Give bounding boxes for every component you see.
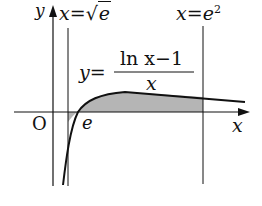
- label-x-e-squared-lhs: x=: [176, 2, 203, 24]
- equation-lhs: y=: [79, 61, 106, 83]
- label-x-sqrt-e-radicand: e: [98, 1, 111, 24]
- x-axis-label: x: [232, 114, 243, 136]
- y-axis-arrow-icon: [49, 5, 57, 17]
- label-x-e-squared-base: e: [203, 2, 214, 24]
- label-x-sqrt-e-lhs: x=: [59, 2, 86, 24]
- equation-numerator: ln x−1: [120, 47, 183, 69]
- origin-label: O: [32, 113, 47, 134]
- equation-denominator: x: [146, 72, 157, 94]
- root-label: e: [82, 112, 93, 133]
- y-axis-label: y: [35, 0, 45, 20]
- label-x-e-squared-exponent: 2: [214, 3, 221, 16]
- sqrt-icon: √: [86, 2, 98, 24]
- label-x-sqrt-e: x=√e: [59, 2, 111, 24]
- label-x-e-squared: x=e2: [176, 2, 221, 24]
- diagram-canvas: [0, 0, 262, 206]
